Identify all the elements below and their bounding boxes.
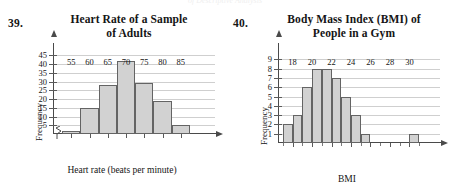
x-axis-arrow-icon [216,131,223,137]
histogram-bar [312,69,322,143]
histogram-bar [153,101,171,134]
y-axis-tick [49,64,57,65]
x-axis-tick [181,134,182,138]
x-axis-minor-tick [283,143,284,146]
bmi-y-axis-label: Frequency [249,47,263,193]
y-axis-tick-label: 25 [39,86,48,95]
heart-rate-y-axis [53,43,54,134]
x-axis-tick [370,143,371,147]
y-axis-tick [274,97,282,98]
y-axis-arrow-icon [51,30,57,37]
x-axis-tick [126,134,127,138]
x-axis-minor-tick [361,143,362,146]
heart-rate-plot-area: 5101520253035404555606570758085 [53,52,199,134]
y-axis-tick [49,108,57,109]
x-axis-tick-label: 18 [288,58,297,67]
problem-40-title-line2: People in a Gym [313,27,395,39]
x-axis-tick-label: 80 [158,58,167,67]
histogram-bar [135,83,153,134]
y-axis-tick-label: 4 [268,101,272,110]
y-axis-tick [274,106,282,107]
problem-40-title-line1: Body Mass Index (BMI) of [287,13,420,25]
y-axis-tick [274,78,282,79]
x-axis-minor-tick [419,143,420,146]
problem-39-title: Heart Rate of a Sample of Adults [36,13,222,40]
x-axis-tick [409,143,410,147]
bmi-y-axis [278,43,279,143]
x-axis-minor-tick [380,143,381,146]
histogram-bar [409,134,419,143]
x-axis-tick [108,134,109,138]
y-axis-tick-label: 1 [268,129,272,138]
y-axis-tick-label: 8 [268,64,272,73]
y-axis-tick [49,99,57,100]
y-axis-tick [274,134,282,135]
x-axis-tick-label: 60 [85,58,94,67]
y-axis-tick-label: 7 [268,74,272,83]
x-axis-tick-label: 24 [347,58,356,67]
y-axis-tick [49,125,57,126]
gridline [53,55,215,56]
y-axis-tick-label: 5 [43,121,47,130]
histogram-bar [322,69,332,143]
gridline [278,69,440,70]
y-axis-tick-label: 10 [39,112,48,121]
bmi-plot-area: 12345678918202224262830 [278,52,424,143]
x-axis-tick [351,143,352,147]
x-axis-minor-tick [302,143,303,146]
y-axis-arrow-icon [276,30,282,37]
y-axis-tick [49,73,57,74]
heart-rate-x-axis-title: Heart rate (beats per minute) [24,165,220,175]
y-axis-tick-label: 45 [39,51,48,60]
y-axis-tick [274,69,282,70]
x-axis-tick-label: 22 [327,58,336,67]
y-axis-tick [274,87,282,88]
y-axis-tick [274,124,282,125]
y-axis-tick-label: 6 [268,83,272,92]
x-axis-tick-label: 20 [308,58,317,67]
y-axis-tick-label: 5 [268,92,272,101]
x-axis-tick [332,143,333,147]
x-axis-tick-label: 30 [405,58,414,67]
histogram-bar [117,61,135,134]
y-axis-tick-label: 30 [39,77,48,86]
x-axis-tick [71,134,72,138]
histogram-bar [80,108,98,134]
problem-39: 39. Heart Rate of a Sample of Adults Fre… [0,0,225,193]
y-axis-tick-label: 40 [39,60,48,69]
x-axis-minor-tick [341,143,342,146]
y-axis-tick [49,90,57,91]
y-axis-tick-label: 2 [268,120,272,129]
x-axis-tick-label: 75 [140,58,149,67]
problem-39-number: 39. [8,17,23,29]
x-axis-tick [390,143,391,147]
histogram-bar [293,115,303,143]
x-axis-tick [293,143,294,147]
histogram-bar [351,115,361,143]
x-axis-tick [90,134,91,138]
histogram-bar [341,97,351,143]
x-axis-tick-label: 85 [177,58,186,67]
y-axis-tick [49,55,57,56]
y-axis-tick-label: 9 [268,55,272,64]
histogram-bar [332,78,342,143]
y-axis-tick-label: 35 [39,68,48,77]
y-axis-tick-label: 15 [39,103,48,112]
x-axis-tick [312,143,313,147]
histogram-bar [361,134,371,143]
y-axis-tick-label: 20 [39,95,48,104]
histogram-bar [99,85,117,134]
textbook-page: of Descriptive Analysis 39. Heart Rate o… [0,0,450,193]
x-axis-tick-label: 28 [386,58,395,67]
problem-40-title: Body Mass Index (BMI) of People in a Gym [261,13,447,40]
x-axis-tick [163,134,164,138]
problem-39-title-line2: of Adults [106,27,151,39]
bmi-histogram: Frequency 12345678918202224262830 BMI [249,47,445,193]
x-axis-minor-tick [322,143,323,146]
x-axis-minor-tick [400,143,401,146]
y-axis-tick [274,115,282,116]
x-axis-tick-label: 70 [122,58,131,67]
heart-rate-histogram: Frequency 510152025303540455560657075808… [24,47,220,193]
x-axis-tick [144,134,145,138]
histogram-bar [302,87,312,143]
